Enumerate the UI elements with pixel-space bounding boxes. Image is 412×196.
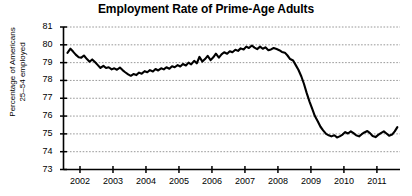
- data-series-line: [67, 46, 397, 138]
- chart-container: Employment Rate of Prime-Age Adults Perc…: [0, 0, 412, 196]
- gridlines: [64, 27, 401, 170]
- plot-area: [0, 0, 412, 196]
